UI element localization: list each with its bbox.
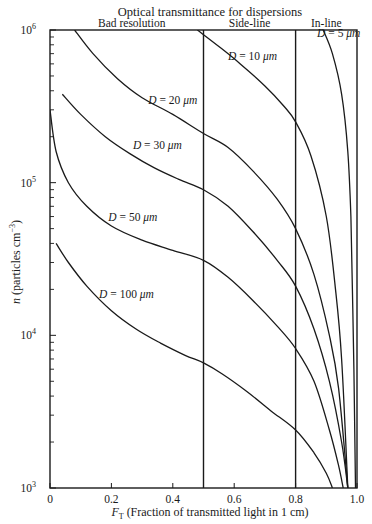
- region-label: Bad resolution: [98, 17, 166, 29]
- x-tick-label: 0.4: [166, 493, 181, 505]
- curve-10um: [197, 30, 347, 488]
- x-tick-label: 0: [47, 493, 53, 505]
- y-tick-label: 104: [21, 327, 37, 341]
- curve-50um: [50, 110, 343, 488]
- x-tick-label: 0.6: [227, 493, 242, 505]
- x-axis: 00.20.40.60.81.0: [47, 483, 364, 505]
- curve-labels: D = 5 μmD = 10 μmD = 20 μmD = 30 μmD = 5…: [98, 27, 360, 301]
- y-tick-label: 106: [21, 22, 37, 36]
- x-axis-label: FT (Fraction of transmitted light in 1 c…: [110, 505, 308, 521]
- plot-frame: [50, 30, 357, 488]
- curve-label: D = 100 μm: [98, 288, 154, 301]
- transmittance-chart: Optical transmittance for dispersions Ba…: [0, 0, 372, 524]
- y-axis-label: n (particles cm−3): [8, 220, 23, 304]
- x-tick-label: 1.0: [350, 493, 365, 505]
- region-label: Side-line: [229, 17, 271, 29]
- curve-5um: [323, 30, 355, 488]
- curve-20um: [75, 30, 348, 488]
- y-tick-label: 105: [21, 175, 37, 189]
- curves: [50, 30, 356, 488]
- x-tick-label: 0.2: [104, 493, 119, 505]
- x-tick-label: 0.8: [288, 493, 303, 505]
- curve-100um: [56, 243, 332, 488]
- curve-label: D = 5 μm: [316, 27, 360, 40]
- curve-label: D = 10 μm: [227, 50, 277, 63]
- curve-label: D = 20 μm: [147, 94, 197, 107]
- y-tick-label: 103: [21, 480, 37, 494]
- curve-label: D = 30 μm: [132, 139, 182, 152]
- curve-label: D = 50 μm: [107, 211, 157, 224]
